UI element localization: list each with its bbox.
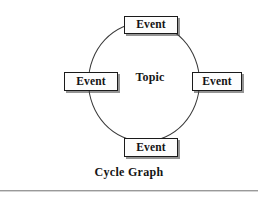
diagram-caption: Cycle Graph [0,165,258,180]
event-node-top: Event [124,16,178,34]
event-node-right: Event [192,72,242,91]
footer-divider-soft [0,191,258,192]
event-node-left: Event [64,72,118,91]
diagram-canvas: Topic Event Event Event Event Cycle Grap… [0,0,258,200]
topic-center-label: Topic [120,70,180,85]
event-node-bottom: Event [124,138,178,157]
